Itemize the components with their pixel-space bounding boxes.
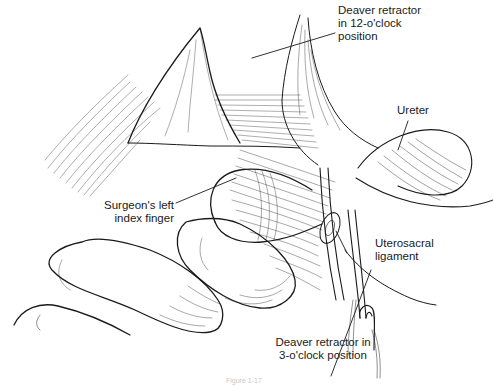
- label-deaver-retractor-3-oclock: Deaver retractor in 3-o'clock position: [263, 336, 383, 362]
- label-line: Ureter: [397, 104, 429, 117]
- line-art-drawing: [0, 0, 493, 386]
- label-ureter: Ureter: [397, 104, 429, 117]
- label-line: Surgeon's left: [82, 199, 174, 212]
- label-surgeon-left-index-finger: Surgeon's left index finger: [82, 199, 174, 225]
- label-line: Deaver retractor in: [263, 336, 383, 349]
- leader-index-finger: [176, 178, 236, 203]
- deaver-retractor-12-oclock: [45, 28, 300, 196]
- label-deaver-retractor-12-oclock: Deaver retractor in 12-o'clock position: [338, 4, 421, 43]
- label-line: index finger: [82, 212, 174, 225]
- label-line: position: [338, 30, 421, 43]
- leader-uterosacral: [336, 231, 347, 253]
- label-uterosacral-ligament: Uterosacral ligament: [375, 237, 434, 263]
- ureter-retractor-loop: [356, 130, 493, 207]
- pelvic-tissue: [230, 150, 335, 290]
- label-line: Uterosacral: [375, 237, 434, 250]
- surgeon-middle-finger: [177, 219, 295, 309]
- label-line: in 12-o'clock: [338, 17, 421, 30]
- label-line: 3-o'clock position: [263, 349, 383, 362]
- label-line: Deaver retractor: [338, 4, 421, 17]
- figure-caption: Figure 1-17: [226, 377, 262, 384]
- surgeon-ring-finger: [49, 239, 223, 333]
- surgeon-little-finger: [14, 305, 130, 335]
- surgical-illustration: Deaver retractor in 12-o'clock position …: [0, 0, 493, 386]
- surgeon-left-index-finger: [211, 169, 322, 242]
- label-line: ligament: [375, 250, 434, 263]
- leader-ureter: [398, 121, 408, 150]
- uterosacral-ligament: [316, 168, 344, 300]
